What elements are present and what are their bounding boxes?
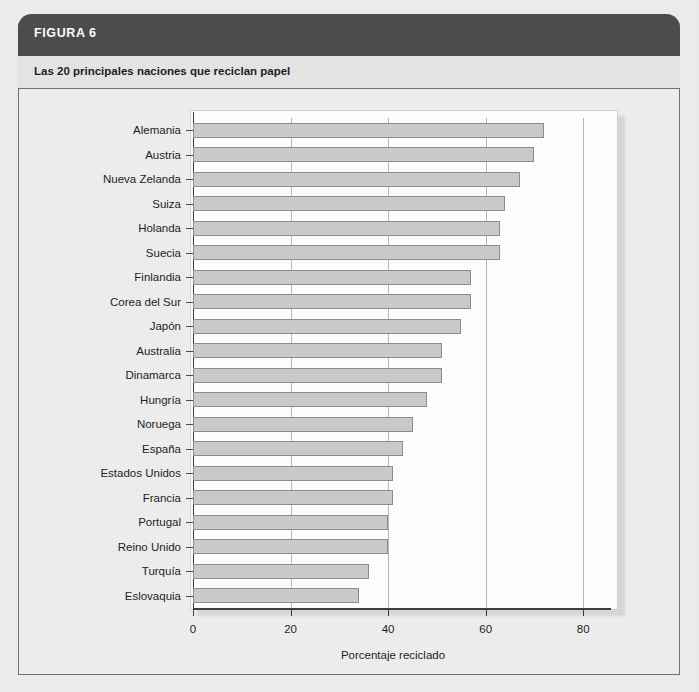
- x-axis-tick-label: 80: [577, 623, 590, 635]
- bar[interactable]: [193, 147, 534, 162]
- bar[interactable]: [193, 172, 520, 187]
- category-label: Alemania: [133, 124, 181, 136]
- bar[interactable]: [193, 196, 505, 211]
- bar[interactable]: [193, 392, 427, 407]
- bar[interactable]: [193, 245, 500, 260]
- figure-subtitle: Las 20 principales naciones que reciclan…: [34, 65, 290, 77]
- category-tick: [186, 375, 193, 376]
- gridline: [388, 118, 389, 608]
- bar[interactable]: [193, 368, 442, 383]
- bar[interactable]: [193, 490, 393, 505]
- category-label: Hungría: [140, 394, 181, 406]
- x-axis-line: [193, 608, 611, 610]
- bar[interactable]: [193, 123, 544, 138]
- x-axis-title: Porcentaje reciclado: [193, 649, 593, 661]
- category-tick: [186, 277, 193, 278]
- chart-area: 020406080AlemaniaAustriaNueva ZelandaSui…: [19, 89, 679, 674]
- category-label: Eslovaquia: [125, 590, 181, 602]
- bar[interactable]: [193, 588, 359, 603]
- category-label: Suecia: [146, 247, 181, 259]
- bar[interactable]: [193, 417, 413, 432]
- category-label: Holanda: [138, 222, 181, 234]
- figure-header-bar: FIGURA 6: [18, 14, 680, 56]
- x-axis-tick: [193, 610, 194, 616]
- category-label: Australia: [136, 345, 181, 357]
- category-tick: [186, 522, 193, 523]
- gridline: [583, 118, 584, 608]
- bar[interactable]: [193, 343, 442, 358]
- category-tick: [186, 424, 193, 425]
- category-tick: [186, 302, 193, 303]
- figure-page: FIGURA 6 Las 20 principales naciones que…: [0, 0, 699, 692]
- category-label: Reino Unido: [118, 541, 181, 553]
- gridline: [291, 118, 292, 608]
- category-label: Portugal: [138, 516, 181, 528]
- category-tick: [186, 547, 193, 548]
- bar[interactable]: [193, 539, 388, 554]
- category-label: Suiza: [152, 198, 181, 210]
- category-label: Noruega: [137, 418, 181, 430]
- category-tick: [186, 351, 193, 352]
- bar[interactable]: [193, 221, 500, 236]
- category-tick: [186, 204, 193, 205]
- category-tick: [186, 498, 193, 499]
- category-label: Estados Unidos: [100, 467, 181, 479]
- bar[interactable]: [193, 564, 369, 579]
- bar[interactable]: [193, 294, 471, 309]
- category-label: España: [142, 443, 181, 455]
- category-tick: [186, 253, 193, 254]
- x-axis-tick: [583, 610, 584, 616]
- x-axis-tick: [486, 610, 487, 616]
- x-axis-tick-label: 20: [284, 623, 297, 635]
- category-tick: [186, 400, 193, 401]
- category-label: Dinamarca: [125, 369, 181, 381]
- category-label: Turquía: [142, 565, 181, 577]
- bar[interactable]: [193, 441, 403, 456]
- plot-region: 020406080AlemaniaAustriaNueva ZelandaSui…: [193, 118, 593, 608]
- category-label: Corea del Sur: [110, 296, 181, 308]
- bar[interactable]: [193, 515, 388, 530]
- category-label: Francia: [143, 492, 181, 504]
- x-axis-tick: [388, 610, 389, 616]
- category-tick: [186, 228, 193, 229]
- category-tick: [186, 571, 193, 572]
- category-tick: [186, 449, 193, 450]
- x-axis-tick-label: 40: [382, 623, 395, 635]
- gridline: [486, 118, 487, 608]
- x-axis-tick: [291, 610, 292, 616]
- bar[interactable]: [193, 466, 393, 481]
- category-label: Finlandia: [134, 271, 181, 283]
- bar[interactable]: [193, 270, 471, 285]
- x-axis-tick-label: 0: [190, 623, 196, 635]
- category-label: Austria: [145, 149, 181, 161]
- category-tick: [186, 596, 193, 597]
- category-label: Japón: [150, 320, 181, 332]
- category-tick: [186, 473, 193, 474]
- category-label: Nueva Zelanda: [103, 173, 181, 185]
- figure-subtitle-band: Las 20 principales naciones que reciclan…: [18, 56, 680, 89]
- category-tick: [186, 326, 193, 327]
- x-axis-tick-label: 60: [479, 623, 492, 635]
- category-tick: [186, 130, 193, 131]
- category-tick: [186, 155, 193, 156]
- category-tick: [186, 179, 193, 180]
- figure-number-label: FIGURA 6: [34, 26, 97, 40]
- bar[interactable]: [193, 319, 461, 334]
